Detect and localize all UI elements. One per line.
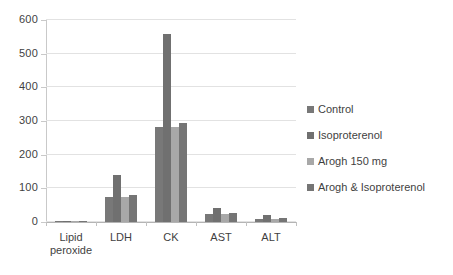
bar — [213, 208, 221, 222]
x-axis-category-label: Lipid peroxide — [46, 231, 96, 257]
legend-swatch-icon — [307, 106, 314, 113]
bar-chart: 0100200300400500600 Lipid peroxideLDHCKA… — [0, 0, 453, 275]
y-tick-label: 500 — [4, 48, 38, 59]
bar — [105, 197, 113, 222]
legend-item[interactable]: Control — [307, 99, 453, 119]
bar-group — [255, 20, 287, 222]
x-axis-category-label: ALT — [246, 231, 296, 244]
bar-group — [155, 20, 187, 222]
x-axis-category-label: LDH — [96, 231, 146, 244]
bar — [221, 214, 229, 222]
bar — [271, 219, 279, 222]
legend-swatch-icon — [307, 158, 314, 165]
x-tick-mark — [196, 222, 197, 226]
bar — [263, 215, 271, 222]
y-tick-label: 600 — [4, 14, 38, 25]
bar-group — [105, 20, 137, 222]
y-tick-label-wrap: 100 — [0, 182, 38, 193]
legend-item[interactable]: Isoproterenol — [307, 125, 453, 145]
x-axis-category-label: CK — [146, 231, 196, 244]
x-axis-category-label: AST — [196, 231, 246, 244]
x-tick-mark — [146, 222, 147, 226]
legend-item-label: Arogh 150 mg — [318, 155, 387, 167]
y-tick-label: 300 — [4, 115, 38, 126]
bar — [129, 195, 137, 222]
bar — [121, 197, 129, 222]
y-tick-label-wrap: 500 — [0, 48, 38, 59]
y-tick-label-wrap: 400 — [0, 81, 38, 92]
bar — [279, 218, 287, 222]
bar — [205, 214, 213, 222]
y-tick-label-wrap: 0 — [0, 216, 38, 227]
bar — [63, 221, 71, 222]
y-tick-label: 400 — [4, 81, 38, 92]
y-tick-label-wrap: 600 — [0, 14, 38, 25]
bar — [255, 219, 263, 222]
legend-swatch-icon — [307, 132, 314, 139]
bar — [179, 123, 187, 222]
y-tick-label-wrap: 300 — [0, 115, 38, 126]
bar — [71, 221, 79, 222]
y-tick-label: 200 — [4, 149, 38, 160]
x-tick-mark — [96, 222, 97, 226]
legend-item[interactable]: Arogh 150 mg — [307, 151, 453, 171]
bar — [163, 34, 171, 222]
chart-legend: ControlIsoproterenolArogh 150 mgArogh & … — [307, 99, 453, 203]
y-tick-label: 100 — [4, 182, 38, 193]
bar — [55, 221, 63, 222]
legend-swatch-icon — [307, 184, 314, 191]
bar-group — [205, 20, 237, 222]
legend-item-label: Arogh & Isoproterenol — [318, 181, 425, 193]
bar — [113, 175, 121, 222]
x-tick-mark — [46, 222, 47, 226]
bar — [79, 221, 87, 222]
bar — [171, 127, 179, 222]
plot-area — [46, 20, 296, 222]
bar-group — [55, 20, 87, 222]
bar — [155, 127, 163, 222]
legend-item[interactable]: Arogh & Isoproterenol — [307, 177, 453, 197]
legend-item-label: Isoproterenol — [318, 129, 382, 141]
y-tick-label-wrap: 200 — [0, 149, 38, 160]
bar — [229, 213, 237, 222]
legend-item-label: Control — [318, 103, 353, 115]
y-tick-label: 0 — [4, 216, 38, 227]
x-axis-line — [46, 222, 296, 223]
x-tick-mark — [246, 222, 247, 226]
x-tick-mark — [296, 222, 297, 226]
